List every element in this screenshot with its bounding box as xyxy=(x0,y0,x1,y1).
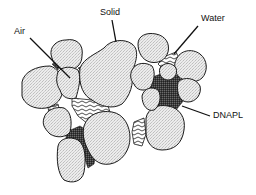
grain xyxy=(177,79,200,102)
grain xyxy=(51,40,82,70)
dnapl-leader xyxy=(182,106,210,116)
water-label: Water xyxy=(201,14,225,23)
water-pore-lower xyxy=(132,118,146,146)
dnapl-label: DNAPL xyxy=(213,111,243,120)
grain xyxy=(22,66,62,108)
grain xyxy=(175,51,207,82)
grain xyxy=(57,138,85,182)
grain xyxy=(80,41,137,107)
grain xyxy=(131,63,154,90)
pore-scale-diagram xyxy=(0,0,256,195)
water-leader xyxy=(174,26,198,54)
solid-leader xyxy=(112,20,116,42)
grain xyxy=(142,88,160,110)
air-label: Air xyxy=(14,27,25,36)
grain xyxy=(43,107,71,136)
grain xyxy=(159,64,176,81)
solid-label: Solid xyxy=(100,8,120,17)
grain xyxy=(146,106,184,151)
grain xyxy=(138,33,169,62)
